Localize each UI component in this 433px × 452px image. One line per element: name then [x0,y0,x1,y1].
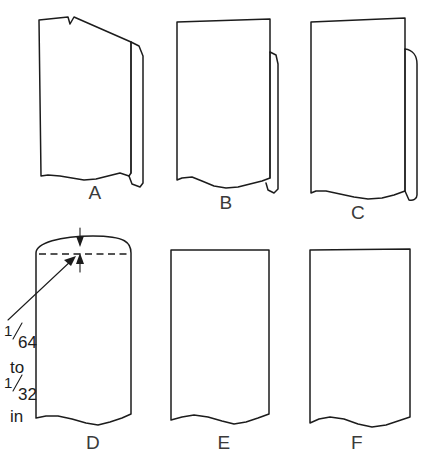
dimension-annotation: 1 64 to 1 32 in [4,322,37,426]
diagram-canvas: A B C [0,0,433,452]
figure-f-face [310,249,410,427]
figure-c-group: C [311,18,417,223]
figure-b-face [177,19,270,188]
figure-f-group: F [310,249,410,452]
figure-f-label: F [351,432,363,452]
fraction-2-denominator: 32 [18,385,37,404]
figure-e-group: E [171,250,269,452]
figure-d-group: 1 64 to 1 32 in D [4,228,131,452]
figure-b-group: B [177,19,278,213]
figure-e-face [171,250,269,424]
board-profiles-diagram: A B C [0,0,433,452]
figure-c-label: C [351,202,365,223]
figure-a-group: A [39,17,143,203]
figure-a-face [39,17,131,180]
fraction-1-denominator: 64 [18,333,37,352]
fraction-2-numerator: 1 [4,374,12,391]
figure-e-label: E [218,432,231,452]
figure-d-label: D [86,432,100,452]
figure-b-label: B [220,192,233,213]
annotation-unit: in [10,407,23,426]
figure-c-face [311,18,405,199]
figure-c-rounded-edge [405,49,417,200]
figure-d-face [36,236,131,425]
figure-a-label: A [89,182,102,203]
fraction-1-numerator: 1 [4,322,12,339]
